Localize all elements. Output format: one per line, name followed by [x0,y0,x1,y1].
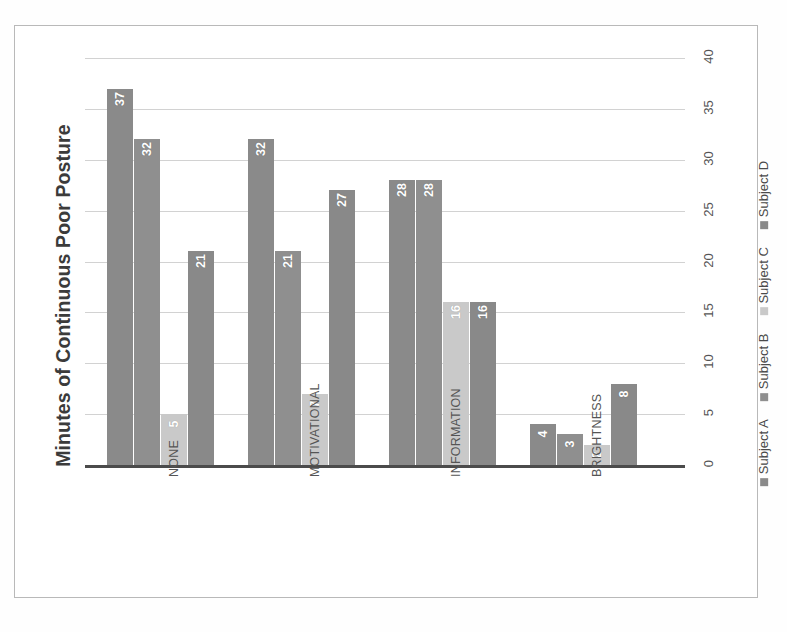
x-label-none: NONE [167,440,181,477]
legend-label: Subject A [756,419,771,474]
bar-none-subject-a: 37 [107,89,133,465]
bar-value-label: 4 [536,431,550,438]
figure-frame: Minutes of Continuous Poor Posture 37325… [14,25,758,598]
x-label-motivational: MOTIVATIONAL [308,383,322,477]
bar-value-label: 16 [449,305,463,319]
bar-value-label: 32 [254,142,268,156]
chart-legend: Subject ASubject BSubject CSubject D [756,161,771,486]
bar-value-label: 3 [563,441,577,448]
bar-value-label: 28 [422,183,436,197]
bar-group-brightness: 4328 [530,58,637,465]
bar-value-label: 21 [194,254,208,268]
legend-swatch-icon [760,478,768,486]
y-tick-label-20: 20 [701,243,716,277]
legend-swatch-icon [760,221,768,229]
y-tick-label-10: 10 [701,345,716,379]
y-tick-label-0: 0 [701,447,716,481]
bar-motivational-subject-b: 21 [275,251,301,465]
bar-value-label: 8 [617,390,631,397]
bar-brightness-subject-a: 4 [530,424,556,465]
bar-value-label: 32 [140,142,154,156]
legend-label: Subject B [756,334,771,390]
y-tick-label-15: 15 [701,294,716,328]
legend-item-subject-c[interactable]: Subject C [756,247,771,315]
bar-group-none: 3732521 [107,58,214,465]
x-label-information: INFORMATION [449,388,463,477]
bar-brightness-subject-d: 8 [611,384,637,465]
y-tick-label-35: 35 [701,90,716,124]
legend-item-subject-a[interactable]: Subject A [756,419,771,486]
bar-value-label: 5 [167,421,181,428]
bar-value-label: 21 [281,254,295,268]
x-label-brightness: BRIGHTNESS [590,394,604,477]
bar-motivational-subject-d: 27 [329,190,355,465]
y-tick-label-25: 25 [701,192,716,226]
legend-item-subject-b[interactable]: Subject B [756,334,771,402]
bar-value-label: 37 [113,92,127,106]
bar-group-information: 28281616 [389,58,496,465]
y-tick-label-40: 40 [701,40,716,74]
bar-group-motivational: 3221727 [248,58,355,465]
bar-value-label: 16 [476,305,490,319]
legend-swatch-icon [760,393,768,401]
legend-label: Subject D [756,161,771,217]
bar-value-label: 28 [395,183,409,197]
y-axis-title: Minutes of Continuous Poor Posture [52,86,75,506]
bar-none-subject-b: 32 [134,139,160,465]
legend-swatch-icon [760,308,768,316]
bar-brightness-subject-b: 3 [557,434,583,465]
legend-label: Subject C [756,247,771,303]
scanned-chart-page: Minutes of Continuous Poor Posture 37325… [0,0,787,632]
y-tick-label-5: 5 [701,396,716,430]
bar-information-subject-a: 28 [389,180,415,465]
y-tick-label-30: 30 [701,141,716,175]
bar-none-subject-d: 21 [188,251,214,465]
bar-value-label: 27 [335,193,349,207]
legend-item-subject-d[interactable]: Subject D [756,161,771,229]
bar-information-subject-d: 16 [470,302,496,465]
bar-motivational-subject-a: 32 [248,139,274,465]
bar-information-subject-b: 28 [416,180,442,465]
